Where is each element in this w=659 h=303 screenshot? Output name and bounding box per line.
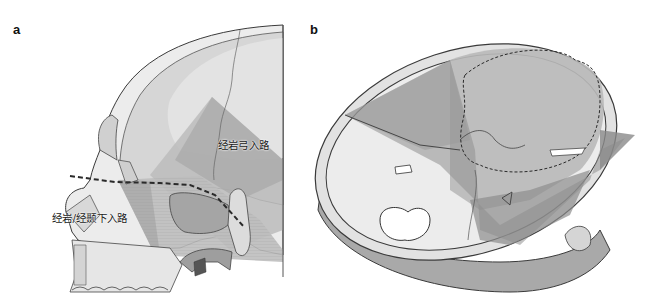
panel-b: b: [300, 0, 659, 303]
cranial-base-illustration: [300, 0, 659, 303]
label-upper-approach: 经岩弓入路: [218, 137, 269, 152]
panel-a: a: [0, 0, 300, 303]
label-lower-approach: 经岩/经颞下入路: [52, 210, 127, 225]
